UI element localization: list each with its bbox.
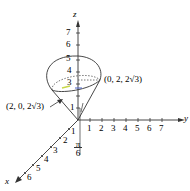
z-axis-arrow-icon [76, 20, 80, 27]
x-tick-5: 5 [36, 163, 41, 173]
z-tick-5: 5 [66, 53, 71, 63]
y-tick-5: 5 [135, 123, 140, 133]
cone-edge-right [78, 80, 100, 120]
angle-denominator: 6 [73, 148, 83, 158]
y-tick-2: 2 [99, 123, 104, 133]
y-tick-1: 1 [87, 123, 92, 133]
z-tick-3: 3 [67, 77, 72, 87]
z-axis-label: z [73, 9, 77, 19]
y-tick-4: 4 [123, 123, 128, 133]
cone-sphere-diagram [0, 0, 190, 191]
rim-front [52, 80, 100, 92]
x-axis-label: x [5, 176, 9, 186]
point-label-left: (2, 0, 2√3) [6, 101, 44, 111]
z-tick-4: 4 [67, 65, 72, 75]
z-tick-6: 6 [66, 39, 71, 49]
x-tick-4: 4 [44, 154, 49, 164]
x-tick-6: 6 [27, 172, 32, 182]
y-tick-7: 7 [159, 123, 164, 133]
y-tick-3: 3 [111, 123, 116, 133]
x-tick-2: 2 [63, 135, 68, 145]
point-label-right: (0, 2, 2√3) [104, 74, 142, 84]
x-tick-1: 1 [71, 126, 76, 136]
y-tick-6: 6 [147, 123, 152, 133]
z-tick-7: 7 [66, 27, 71, 37]
y-axis-label: y [184, 113, 188, 123]
z-tick-1: 1 [70, 102, 75, 112]
x-tick-3: 3 [53, 145, 58, 155]
